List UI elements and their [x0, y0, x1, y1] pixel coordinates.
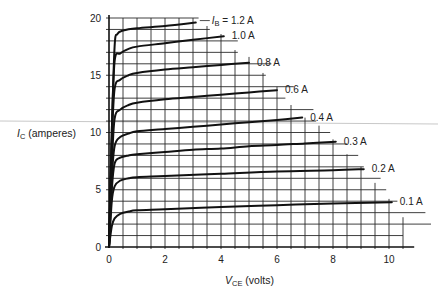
- y-tick-label: 10: [90, 127, 102, 138]
- curve-label: 0.6 A: [285, 84, 308, 95]
- y-tick-label: 20: [90, 13, 102, 24]
- curve: [109, 142, 336, 247]
- x-tick-labels: 0246810: [106, 254, 395, 265]
- transistor-characteristic-chart: 05101520 0246810 IB = 1.2 A1.0 A0.8 A0.6…: [0, 0, 438, 294]
- curve-label: 0.2 A: [372, 163, 395, 174]
- x-tick-label: 10: [383, 254, 395, 265]
- x-tick-label: 4: [218, 254, 224, 265]
- y-tick-label: 0: [95, 242, 101, 253]
- grid: [106, 18, 431, 249]
- y-tick-labels: 05101520: [90, 13, 102, 253]
- x-tick-label: 0: [106, 254, 112, 265]
- curve-label: 0.4 A: [310, 112, 333, 123]
- curve: [109, 118, 302, 247]
- curve-label: 0.8 A: [257, 57, 280, 68]
- curve-label: 0.3 A: [344, 136, 367, 147]
- y-tick-label: 15: [90, 70, 102, 81]
- x-tick-label: 2: [162, 254, 168, 265]
- curve-label: 0.1 A: [400, 196, 423, 207]
- x-tick-label: 8: [330, 254, 336, 265]
- curve-label: IB = 1.2 A: [212, 15, 254, 28]
- curve-label: 1.0 A: [232, 30, 255, 41]
- x-tick-label: 6: [274, 254, 280, 265]
- y-axis-label: IC (amperes): [17, 127, 76, 141]
- y-tick-label: 5: [95, 184, 101, 195]
- x-axis-label: VCE (volts): [225, 274, 274, 288]
